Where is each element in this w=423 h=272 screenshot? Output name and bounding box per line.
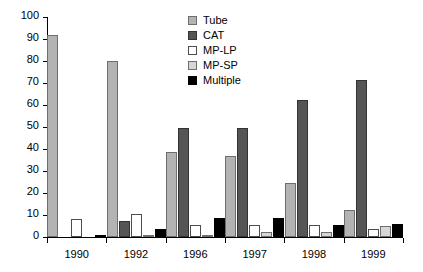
bar-chart: 1009080706050403020100 19901992199619971… [0,0,423,272]
legend-item-tube[interactable]: Tube [188,14,241,27]
x-axis-tick-mark [225,238,226,243]
legend-item-multiple[interactable]: Multiple [188,74,241,87]
x-axis-tick-mark [106,238,107,243]
bar-tube-1996 [166,152,177,237]
x-axis-tick-label: 1992 [106,248,165,260]
legend-item-label: MP-LP [203,45,237,56]
x-axis-tick-mark [344,238,345,243]
bar-multiple-1996 [214,218,225,237]
legend-swatch-icon [188,31,197,40]
bar-tube-1990 [47,35,58,237]
bar-mp-lp-1990 [71,219,82,237]
bar-multiple-1992 [155,229,166,237]
bar-mp-lp-1992 [131,214,142,237]
legend-item-label: Multiple [203,75,241,86]
legend-swatch-icon [188,76,197,85]
x-axis-tick-label: 1996 [166,248,225,260]
bar-cat-1997 [237,128,248,237]
bar-cat-1998 [297,100,308,238]
legend-item-cat[interactable]: CAT [188,29,241,42]
legend-item-mp-sp[interactable]: MP-SP [188,59,241,72]
x-axis-tick-label: 1999 [344,248,403,260]
y-axis-tick-label: 100 [21,10,39,21]
y-axis-tick-label: 20 [27,186,39,197]
bar-tube-1992 [107,61,118,237]
x-axis-tick-label: 1998 [284,248,343,260]
bar-tube-1999 [344,210,355,238]
bar-multiple-1990 [95,235,106,237]
bar-mp-lp-1998 [309,225,320,237]
bar-mp-lp-1999 [368,229,379,237]
x-axis-tick-label: 1990 [47,248,106,260]
bar-mp-sp-1996 [202,235,213,237]
bar-mp-sp-1997 [261,232,272,238]
chart-legend: TubeCATMP-LPMP-SPMultiple [188,14,241,87]
legend-item-mp-lp[interactable]: MP-LP [188,44,241,57]
legend-item-label: MP-SP [203,60,238,71]
y-axis-tick-label: 70 [27,76,39,87]
bar-cat-1999 [356,80,367,237]
bar-tube-1997 [225,156,236,237]
bar-mp-lp-1996 [190,225,201,237]
bar-tube-1998 [285,183,296,237]
y-axis-tick-label: 80 [27,54,39,65]
bar-cat-1992 [119,221,130,238]
y-axis-tick-label: 60 [27,98,39,109]
y-axis-tick-label: 40 [27,142,39,153]
x-axis-tick-label: 1997 [225,248,284,260]
x-axis-tick-mark [403,238,404,243]
bar-cat-1996 [178,128,189,237]
legend-item-label: Tube [203,15,228,26]
legend-swatch-icon [188,16,197,25]
bar-multiple-1998 [333,225,344,237]
y-axis-tick-label: 50 [27,120,39,131]
y-axis-tick-label: 10 [27,208,39,219]
x-axis-tick-mark [166,238,167,243]
y-axis-tick-label: 30 [27,164,39,175]
bar-mp-sp-1992 [143,235,154,237]
bar-multiple-1999 [392,224,403,237]
bar-mp-lp-1997 [249,225,260,237]
bar-mp-sp-1998 [321,232,332,238]
bar-mp-sp-1999 [380,226,391,237]
x-axis-tick-mark [47,238,48,243]
legend-swatch-icon [188,61,197,70]
x-axis-tick-mark [284,238,285,243]
legend-item-label: CAT [203,30,224,41]
y-axis-tick-label: 0 [33,230,39,241]
legend-swatch-icon [188,46,197,55]
y-axis-tick-label: 90 [27,32,39,43]
bar-multiple-1997 [273,218,284,237]
